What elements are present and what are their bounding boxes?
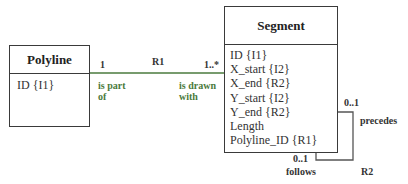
r1-from-role: is part of — [98, 80, 126, 102]
r1-from-multiplicity: 1 — [100, 59, 105, 70]
r2-from-multiplicity: 0..1 — [344, 97, 359, 108]
class-segment-attribute: Length — [230, 119, 337, 133]
r1-to-multiplicity: 1..* — [204, 59, 219, 70]
class-polyline-name: Polyline — [10, 46, 89, 74]
r1-association-id: R1 — [152, 56, 164, 67]
class-segment-attribute: X_end {R2} — [230, 76, 337, 90]
class-segment-attribute: Polyline_ID {R1} — [230, 133, 337, 147]
r2-association-id: R2 — [361, 166, 373, 177]
class-segment-attribute: Y_start {I2} — [230, 91, 337, 105]
class-polyline: Polyline ID {I1} — [9, 45, 90, 127]
r2-to-multiplicity: 0..1 — [293, 153, 308, 164]
r1-from-role-line1: is part — [98, 80, 126, 91]
class-segment-attribute: Y_end {R2} — [230, 105, 337, 119]
r2-to-role: follows — [286, 166, 316, 177]
r1-to-role: is drawn with — [179, 80, 216, 102]
r1-from-role-line2: of — [98, 91, 126, 102]
class-segment: Segment ID {I1} X_start {I2} X_end {R2} … — [224, 6, 338, 153]
r1-to-role-line1: is drawn — [179, 80, 216, 91]
class-polyline-attribute: ID {I1} — [17, 78, 89, 92]
class-segment-name: Segment — [225, 7, 337, 45]
r1-to-role-line2: with — [179, 91, 216, 102]
class-segment-attribute: X_start {I2} — [230, 62, 337, 76]
class-segment-attribute: ID {I1} — [230, 48, 337, 62]
r2-from-role: precedes — [360, 115, 397, 126]
